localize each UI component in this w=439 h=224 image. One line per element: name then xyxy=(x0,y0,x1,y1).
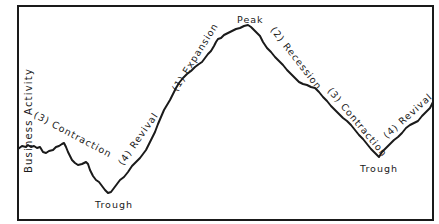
label-peak: Peak xyxy=(237,14,264,25)
label-expansion: (1) Expansion xyxy=(169,21,220,93)
label-trough-1: Trough xyxy=(94,199,133,210)
business-cycle-chart: (3) Contraction Trough (4) Revival (1) E… xyxy=(0,0,439,224)
label-contraction-2: (3) Contraction xyxy=(325,85,389,159)
label-revival-1: (4) Revival xyxy=(116,110,160,167)
label-trough-2: Trough xyxy=(359,163,398,174)
label-revival-2: (4) Revival xyxy=(381,91,434,141)
